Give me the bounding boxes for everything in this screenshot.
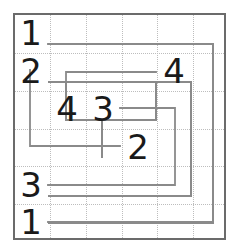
clue-cell: 3 bbox=[14, 167, 48, 203]
clue-cell: 4 bbox=[157, 53, 191, 89]
clue-cell: 4 bbox=[50, 91, 84, 127]
puzzle-canvas: 1 2 4 4 3 2 3 1 bbox=[0, 0, 239, 248]
clue-cell: 3 bbox=[86, 91, 120, 127]
clue-cell: 2 bbox=[14, 53, 48, 89]
clue-cell: 1 bbox=[14, 204, 48, 240]
clue-cell: 2 bbox=[121, 129, 155, 165]
clue-cell: 1 bbox=[14, 15, 48, 51]
gridline-horizontal-3 bbox=[15, 129, 224, 130]
